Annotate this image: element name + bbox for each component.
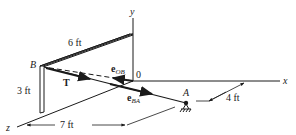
e-ob-label: eOB	[111, 63, 126, 76]
y-axis-label: y	[129, 6, 135, 17]
tension-label: T	[63, 77, 70, 88]
pin-support-icon	[180, 104, 191, 112]
x-offset-label: 4 ft	[226, 92, 240, 103]
z-distance-extension	[127, 107, 175, 125]
wall-bottom-edge	[40, 112, 44, 113]
z-distance-label: 7 ft	[60, 119, 74, 130]
wall-top-edge	[40, 34, 130, 66]
e-ba-label: eBA	[127, 92, 141, 105]
statics-diagram: y x z 0 6 ft 3 ft B T eOB eBA A	[0, 0, 296, 135]
wall-width-label: 6 ft	[68, 37, 82, 48]
z-axis	[17, 81, 133, 127]
point-b-label: B	[30, 59, 36, 70]
x-offset-dim-line-rev	[209, 92, 226, 101]
origin-label: 0	[136, 69, 141, 80]
x-axis-label: x	[282, 75, 288, 86]
wall-height-label: 3 ft	[17, 85, 31, 96]
point-a-label: A	[182, 87, 190, 98]
wall-top-edge-back	[43, 35, 133, 67]
e-ob-vector	[113, 78, 133, 81]
z-axis-label: z	[5, 122, 10, 133]
